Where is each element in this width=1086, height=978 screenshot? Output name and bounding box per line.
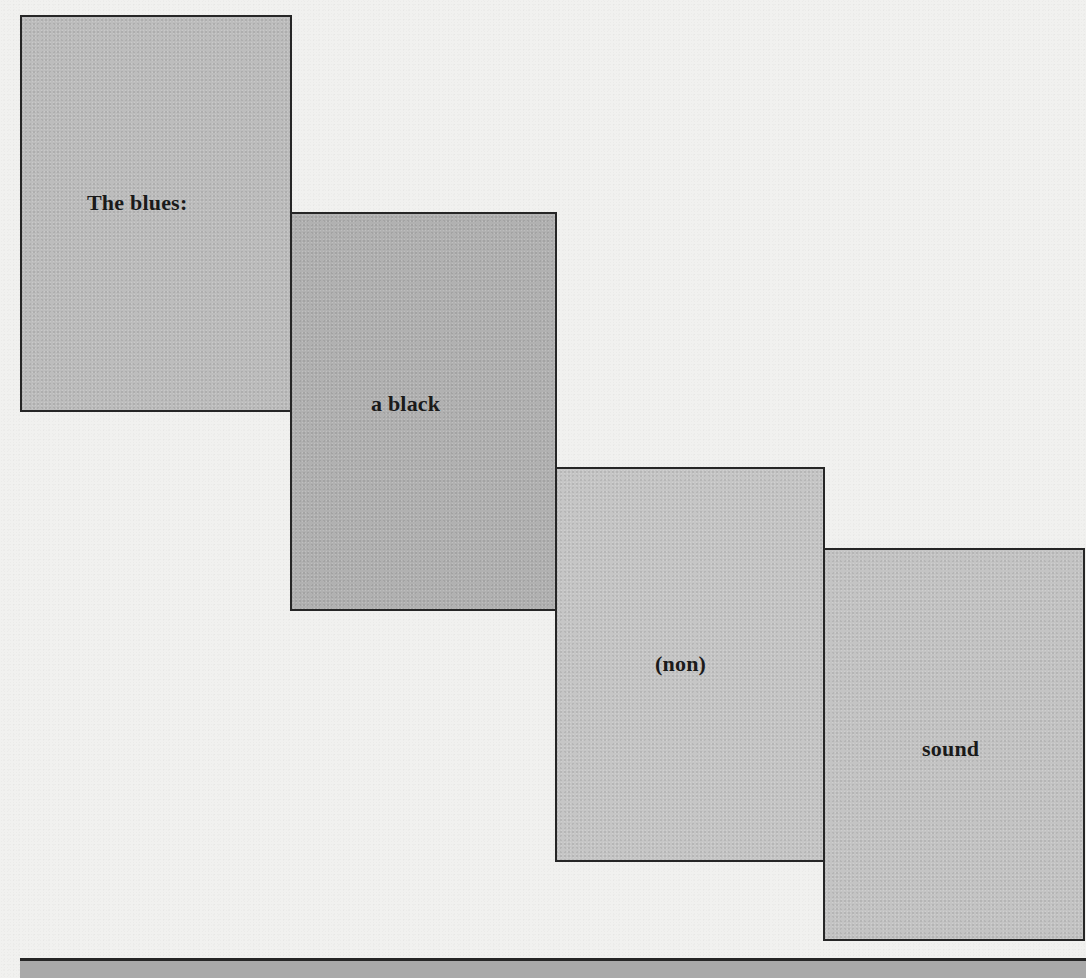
card-text: sound — [922, 736, 979, 762]
card-text: The blues: — [87, 190, 187, 216]
bottom-card-edge — [20, 958, 1086, 978]
card-non: (non) — [555, 467, 825, 862]
card-a-black: a black — [290, 212, 557, 611]
card-sound: sound — [823, 548, 1085, 941]
card-text: a black — [371, 391, 440, 417]
card-the-blues: The blues: — [20, 15, 292, 412]
card-text: (non) — [655, 651, 706, 677]
